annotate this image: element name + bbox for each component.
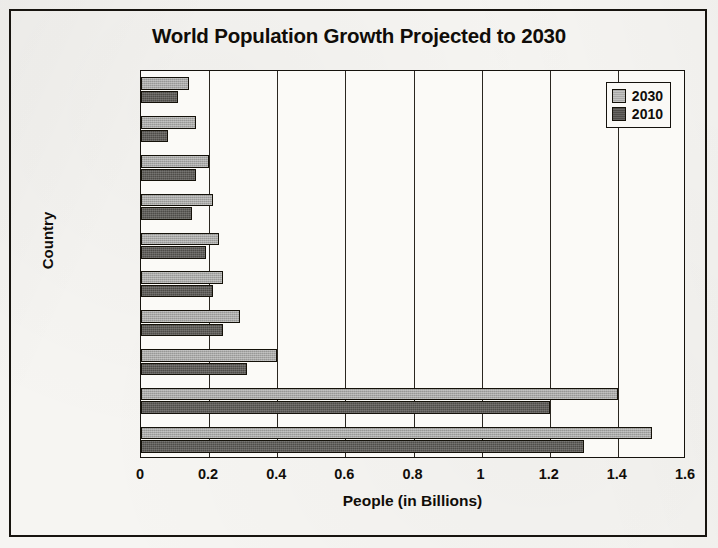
chart-title: World Population Growth Projected to 203…	[0, 24, 718, 48]
bar-2030-philiipines	[141, 77, 189, 90]
plot-area: 20302010	[140, 70, 685, 458]
bar-2030-china	[141, 388, 618, 401]
bar-2010-nigeria	[141, 207, 192, 220]
bar-2030-bangladesh	[141, 155, 209, 168]
legend-item-2010: 2010	[612, 105, 663, 123]
bar-2010-ethiopia	[141, 130, 168, 143]
x-axis-title: People (in Billions)	[140, 492, 685, 510]
bar-2030-brazil	[141, 271, 223, 284]
x-tick-label: 0.8	[383, 466, 443, 482]
bar-2010-usa	[141, 363, 247, 376]
bar-2010-pakistan	[141, 246, 206, 259]
chart-legend: 20302010	[606, 82, 671, 128]
x-tick-label: 1.2	[519, 466, 579, 482]
legend-swatch-2010	[612, 107, 626, 121]
x-tick-label: 1	[451, 466, 511, 482]
x-tick-label: 0.6	[314, 466, 374, 482]
legend-label: 2030	[632, 89, 663, 103]
x-tick-label: 0.2	[178, 466, 238, 482]
bar-2010-india	[141, 440, 584, 453]
bar-2030-india	[141, 427, 652, 440]
x-tick-label: 1.4	[587, 466, 647, 482]
scanned-page: World Population Growth Projected to 203…	[0, 0, 718, 548]
gridline	[618, 71, 619, 457]
bar-2030-ethiopia	[141, 116, 196, 129]
x-tick-label: 0.4	[246, 466, 306, 482]
bar-2010-indonesia	[141, 324, 223, 337]
bar-2010-china	[141, 401, 550, 414]
legend-item-2030: 2030	[612, 87, 663, 105]
legend-label: 2010	[632, 107, 663, 121]
x-tick-label: 1.6	[655, 466, 715, 482]
bar-2010-bangladesh	[141, 169, 196, 182]
bar-2030-indonesia	[141, 310, 240, 323]
legend-swatch-2030	[612, 89, 626, 103]
bar-2030-usa	[141, 349, 277, 362]
bar-2010-philiipines	[141, 91, 178, 104]
bar-2030-pakistan	[141, 233, 219, 246]
bar-2030-nigeria	[141, 194, 213, 207]
y-axis-title: Country	[39, 186, 56, 296]
x-tick-label: 0	[110, 466, 170, 482]
bar-2010-brazil	[141, 285, 213, 298]
